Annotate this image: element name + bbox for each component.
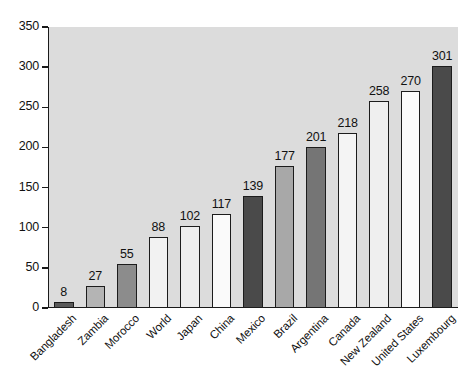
x-axis-label: Brazil	[271, 312, 299, 340]
bar-group: 117	[212, 27, 232, 308]
bar-value-label: 301	[432, 49, 452, 63]
bar	[212, 214, 232, 308]
bar-value-label: 88	[152, 220, 166, 234]
bar	[243, 196, 263, 308]
bar	[432, 66, 452, 308]
bar-group: 27	[86, 27, 106, 308]
bar-group: 139	[243, 27, 263, 308]
y-axis-tick-label: 150	[19, 180, 39, 194]
bar-group: 201	[306, 27, 326, 308]
bar-value-label: 27	[89, 269, 103, 283]
x-axis-label: Bangladesh	[28, 312, 79, 363]
bar-group: 301	[432, 27, 452, 308]
bar-value-label: 270	[401, 74, 421, 88]
bar	[180, 226, 200, 308]
bar	[338, 133, 358, 308]
bar	[369, 101, 389, 308]
bar-value-label: 258	[369, 84, 389, 98]
y-axis-tick-label: 350	[19, 19, 39, 33]
bar-group: 177	[275, 27, 295, 308]
bar-value-label: 8	[60, 285, 67, 299]
bar-value-label: 218	[337, 116, 357, 130]
bar-group: 55	[117, 27, 137, 308]
bar-value-label: 102	[180, 209, 200, 223]
bar-group: 258	[369, 27, 389, 308]
y-axis-tick-label: 100	[19, 220, 39, 234]
bar-group: 270	[401, 27, 421, 308]
bar	[306, 147, 326, 308]
bar	[149, 237, 169, 308]
bar-group: 218	[338, 27, 358, 308]
y-axis-tick-label: 250	[19, 99, 39, 113]
bar-group: 8	[54, 27, 74, 308]
x-axis-label: World	[144, 312, 173, 341]
bar-group: 102	[180, 27, 200, 308]
y-axis-tick-label: 50	[25, 260, 39, 274]
x-axis-label: Japan	[174, 312, 204, 342]
bar-group: 88	[149, 27, 169, 308]
bar	[86, 286, 106, 308]
y-axis-tick-label: 200	[19, 139, 39, 153]
bar-value-label: 201	[306, 130, 326, 144]
bar	[401, 91, 421, 308]
x-axis-label: Mexico	[234, 312, 268, 346]
bar-value-label: 55	[120, 247, 134, 261]
bar	[117, 264, 137, 308]
bar	[275, 166, 295, 308]
y-axis-tick-label: 0	[32, 300, 39, 314]
x-axis-labels: BangladeshZambiaMoroccoWorldJapanChinaMe…	[48, 308, 458, 384]
y-axis: 050100150200250300350	[0, 27, 48, 308]
x-axis-label: China	[207, 312, 236, 341]
bar-value-label: 139	[243, 179, 263, 193]
bar-value-label: 177	[274, 149, 294, 163]
bar-chart: 050100150200250300350 827558810211713917…	[0, 0, 476, 384]
bars-layer: 8275588102117139177201218258270301	[48, 27, 458, 308]
bar-value-label: 117	[212, 197, 231, 211]
y-axis-tick-label: 300	[19, 59, 39, 73]
